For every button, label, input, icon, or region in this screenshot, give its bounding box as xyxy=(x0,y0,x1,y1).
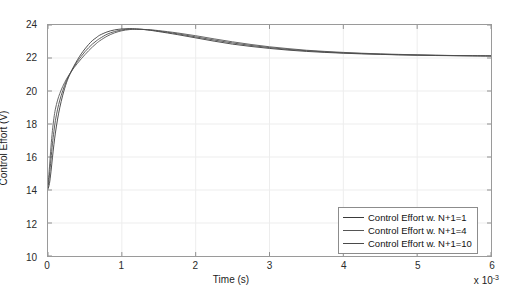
data-series-line xyxy=(48,29,491,185)
x-tick-label: 3 xyxy=(267,260,273,271)
legend-item[interactable]: Control Effort w. N+1=10 xyxy=(343,237,472,250)
y-tick-label: 14 xyxy=(26,185,37,196)
x-axis-multiplier-exponent: -3 xyxy=(493,274,499,281)
y-tick-label: 24 xyxy=(26,19,37,30)
x-axis-label: Time (s) xyxy=(213,274,249,285)
y-tick-label: 18 xyxy=(26,118,37,129)
legend-line-swatch xyxy=(343,217,364,218)
legend-item[interactable]: Control Effort w. N+1=4 xyxy=(343,224,472,237)
figure: 1012141618202224 0123456 Control Effort … xyxy=(0,0,507,296)
x-tick-label: 1 xyxy=(118,260,124,271)
data-series-line xyxy=(48,29,491,190)
y-tick-label: 12 xyxy=(26,218,37,229)
y-axis-label: Control Effort (V) xyxy=(0,111,9,186)
y-tick-label: 16 xyxy=(26,152,37,163)
x-tick-label: 5 xyxy=(415,260,421,271)
x-tick-label: 2 xyxy=(193,260,199,271)
legend[interactable]: Control Effort w. N+1=1Control Effort w.… xyxy=(338,207,478,254)
legend-line-swatch xyxy=(343,230,364,231)
y-tick-label: 20 xyxy=(26,85,37,96)
x-axis-multiplier-base: x 10 xyxy=(474,275,493,286)
x-tick-label: 0 xyxy=(44,260,50,271)
x-axis-multiplier: x 10-3 xyxy=(474,274,499,286)
legend-item-label: Control Effort w. N+1=10 xyxy=(368,237,472,250)
data-series-line xyxy=(48,29,491,187)
x-tick-label: 6 xyxy=(489,260,495,271)
legend-item-label: Control Effort w. N+1=4 xyxy=(368,224,467,237)
legend-line-swatch xyxy=(343,243,364,244)
legend-item-label: Control Effort w. N+1=1 xyxy=(368,211,467,224)
y-tick-label: 10 xyxy=(26,252,37,263)
legend-item[interactable]: Control Effort w. N+1=1 xyxy=(343,211,472,224)
x-tick-label: 4 xyxy=(341,260,347,271)
y-tick-label: 22 xyxy=(26,52,37,63)
